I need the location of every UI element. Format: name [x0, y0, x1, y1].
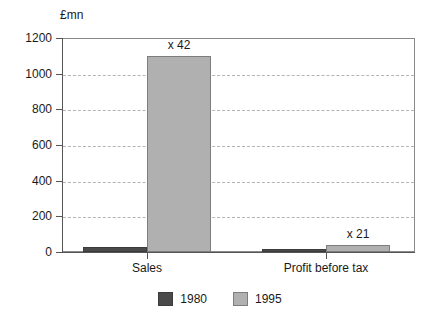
bar-1995-profit-before-tax — [326, 245, 390, 252]
x-tick-mark — [147, 252, 148, 259]
y-tick-label: 600 — [4, 138, 52, 152]
y-tick-mark — [56, 216, 63, 217]
legend-swatch-icon — [233, 292, 248, 306]
y-tick-label: 0 — [4, 245, 52, 259]
bar-annotation: x 21 — [347, 227, 370, 241]
x-tick-mark — [326, 252, 327, 259]
y-tick-mark — [56, 145, 63, 146]
bar-1980-sales — [83, 247, 147, 252]
y-tick-mark — [56, 181, 63, 182]
y-tick-mark — [56, 74, 63, 75]
gridline — [63, 146, 414, 147]
x-tick-label: Sales — [132, 261, 162, 275]
gridline — [63, 75, 414, 76]
gridline — [63, 217, 414, 218]
y-tick-mark — [56, 38, 63, 39]
gridline — [63, 110, 414, 111]
legend-label: 1995 — [255, 292, 282, 306]
legend-entry-1995[interactable]: 1995 — [233, 292, 282, 306]
plot-area — [62, 38, 415, 252]
y-tick-label: 200 — [4, 209, 52, 223]
legend: 19801995 — [0, 292, 440, 306]
bar-1995-sales — [147, 56, 211, 252]
y-tick-label: 400 — [4, 174, 52, 188]
bar-annotation: x 42 — [168, 38, 191, 52]
y-tick-label: 800 — [4, 102, 52, 116]
bar-1980-profit-before-tax — [262, 249, 326, 252]
x-tick-label: Profit before tax — [284, 261, 369, 275]
y-tick-label: 1200 — [4, 31, 52, 45]
x-axis-line — [62, 252, 415, 253]
legend-label: 1980 — [180, 292, 207, 306]
y-tick-mark — [56, 252, 63, 253]
gridline — [63, 182, 414, 183]
bar-chart: £mn 020040060080010001200 SalesProfit be… — [0, 0, 440, 327]
y-axis-title: £mn — [60, 8, 83, 22]
y-tick-label: 1000 — [4, 67, 52, 81]
legend-swatch-icon — [158, 292, 173, 306]
y-tick-mark — [56, 109, 63, 110]
legend-entry-1980[interactable]: 1980 — [158, 292, 207, 306]
